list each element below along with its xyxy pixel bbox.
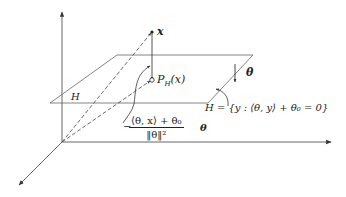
axes [19,12,331,185]
label-normal-theta: θ [246,67,253,78]
offset-formula-theta: θ [200,123,207,133]
projection-diagram: x PH(x) H θ H = {y : ⟨θ, y⟩ + θ₀ = 0} − … [0,0,346,197]
point-x [150,30,153,33]
diagram-canvas [0,0,346,197]
offset-formula-numerator: ⟨θ, x⟩ + θ₀ [129,115,184,128]
offset-formula-denominator: ‖θ‖² [146,128,166,140]
label-plane-definition: H = {y : ⟨θ, y⟩ + θ₀ = 0} [205,103,328,113]
projection-point [150,78,154,82]
label-projection: PH(x) [157,74,185,88]
offset-formula-fraction: ⟨θ, x⟩ + θ₀ ‖θ‖² [129,115,184,140]
label-projection-arg: (x) [171,73,186,86]
label-point-x: x [157,26,164,37]
label-plane-h: H [71,92,80,102]
depth-axis [19,142,62,185]
